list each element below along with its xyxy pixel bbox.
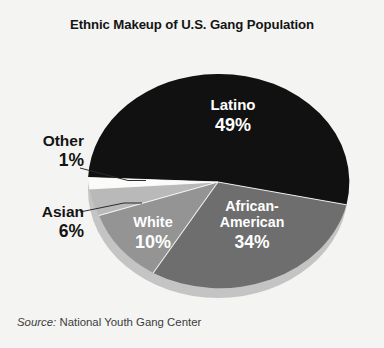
- pie-chart-figure: Ethnic Makeup of U.S. Gang Population La…: [0, 0, 384, 348]
- pie-label-other-value: 1%: [8, 151, 84, 171]
- pie-label-other: Other 1%: [8, 132, 84, 171]
- pie-label-other-name: Other: [8, 132, 84, 150]
- pie-label-asian-name: Asian: [4, 203, 84, 221]
- pie-label-asian: Asian 6%: [4, 203, 84, 242]
- source-prefix: Source:: [17, 316, 56, 328]
- pie-label-asian-value: 6%: [4, 222, 84, 242]
- pie-graphic: [0, 0, 384, 348]
- source-note: Source: National Youth Gang Center: [17, 316, 201, 328]
- source-text: National Youth Gang Center: [59, 316, 201, 328]
